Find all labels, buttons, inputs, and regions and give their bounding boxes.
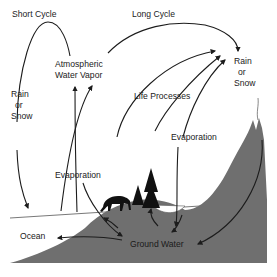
label-evaporation-right: Evaporation	[171, 132, 217, 143]
label-rain-left-2: or	[15, 100, 23, 111]
label-long-cycle: Long Cycle	[132, 9, 175, 20]
label-water-vapor-alt: Water Vapor	[55, 70, 102, 81]
label-rain-left-3: Snow	[11, 111, 33, 122]
label-rain-right-2: or	[238, 67, 246, 78]
label-rain-left-1: Rain	[11, 89, 29, 100]
label-ground-water: Ground Water	[130, 239, 184, 250]
long-cycle-arrow	[108, 23, 238, 53]
pine-trees-icon	[132, 168, 160, 208]
label-rain-right-1: Rain	[234, 56, 252, 67]
evaporation-arrow-1	[75, 87, 77, 212]
rain-left-down-arrow	[17, 150, 28, 208]
label-atmospheric: Atmospheric	[55, 59, 103, 70]
label-rain-right-3: Snow	[234, 78, 256, 89]
label-evaporation-left: Evaporation	[55, 170, 101, 181]
label-ocean: Ocean	[20, 231, 45, 242]
label-short-cycle: Short Cycle	[12, 9, 56, 20]
label-life-processes: Life Processes	[134, 91, 190, 102]
peak-streak	[257, 98, 258, 120]
